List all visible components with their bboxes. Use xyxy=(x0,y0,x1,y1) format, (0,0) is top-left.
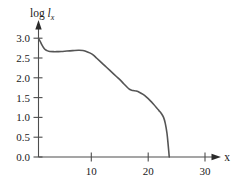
chart-container: 0.0 0.5 1.0 1.5 2.0 2.5 3.0 10 20 30 log… xyxy=(0,0,239,188)
x-tick-label-30: 30 xyxy=(200,165,212,177)
y-tick-label-3: 1.5 xyxy=(16,92,30,104)
survivorship-chart: 0.0 0.5 1.0 1.5 2.0 2.5 3.0 10 20 30 log… xyxy=(0,0,239,188)
x-axis-arrow-icon xyxy=(212,154,222,160)
y-axis-title-subscript: x xyxy=(50,13,55,22)
y-tick-label-6: 3.0 xyxy=(16,32,30,44)
y-tick-label-5: 2.5 xyxy=(16,52,30,64)
x-axis-title: x xyxy=(224,151,230,163)
y-tick-label-2: 1.0 xyxy=(16,111,30,123)
y-tick-label-1: 0.5 xyxy=(16,131,30,143)
y-axis-title-prefix: log xyxy=(30,7,48,20)
y-axis-arrow-icon xyxy=(35,20,41,30)
y-tick-label-4: 2.0 xyxy=(16,72,30,84)
x-tick-label-10: 10 xyxy=(86,165,98,177)
y-tick-label-0: 0.0 xyxy=(16,151,30,163)
y-axis-title: log lx xyxy=(30,7,55,22)
data-series-line xyxy=(39,38,170,157)
x-tick-label-20: 20 xyxy=(143,165,155,177)
